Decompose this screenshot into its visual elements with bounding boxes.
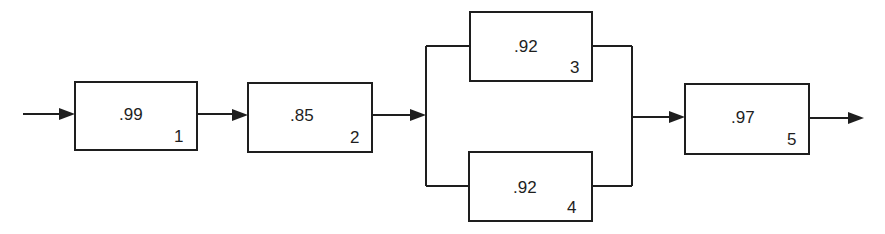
component-2-index: 2 bbox=[350, 128, 359, 147]
component-4: .92 4 bbox=[469, 152, 592, 221]
arrowhead-icon bbox=[669, 111, 685, 123]
component-3-index: 3 bbox=[570, 58, 579, 77]
component-5-reliability: .97 bbox=[731, 108, 755, 127]
arrowhead-icon bbox=[410, 109, 426, 121]
component-4-reliability: .92 bbox=[513, 178, 537, 197]
component-1-reliability: .99 bbox=[119, 105, 143, 124]
component-3: .92 3 bbox=[470, 12, 592, 81]
component-2-reliability: .85 bbox=[290, 106, 314, 125]
component-1: .99 1 bbox=[75, 82, 197, 150]
component-3-reliability: .92 bbox=[514, 37, 538, 56]
split-junction bbox=[426, 46, 470, 186]
component-1-index: 1 bbox=[174, 127, 183, 146]
component-2: .85 2 bbox=[248, 83, 372, 152]
arrow-1-2 bbox=[197, 109, 248, 121]
arrowhead-icon bbox=[232, 109, 248, 121]
output-arrow bbox=[809, 112, 864, 124]
arrow-2-junction bbox=[372, 109, 426, 121]
reliability-diagram: .99 1 .85 2 .92 3 .92 4 bbox=[0, 0, 885, 234]
arrowhead-icon bbox=[59, 108, 75, 120]
arrow-junction-5 bbox=[632, 111, 685, 123]
merge-junction bbox=[592, 46, 632, 186]
component-5-index: 5 bbox=[787, 130, 796, 149]
component-4-index: 4 bbox=[567, 198, 576, 217]
arrowhead-icon bbox=[848, 112, 864, 124]
component-5: .97 5 bbox=[685, 84, 809, 154]
input-arrow bbox=[23, 108, 75, 120]
